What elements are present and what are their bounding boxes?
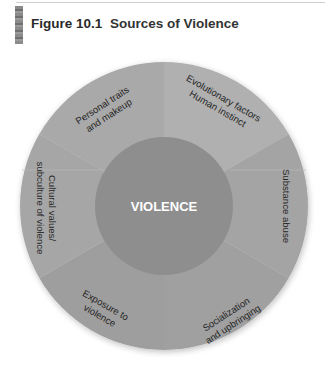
label-substance-abuse: Substance abuse: [281, 169, 292, 243]
svg-text:Substance abuse: Substance abuse: [281, 169, 292, 243]
violence-wheel-diagram: VIOLENCE Personal traits and makeup Evol…: [0, 0, 325, 383]
svg-text:subculture of violence: subculture of violence: [35, 162, 46, 255]
center-label: VIOLENCE: [131, 199, 198, 214]
label-cultural-values: Cultural values/ subculture of violence: [35, 162, 58, 255]
svg-text:Cultural values/: Cultural values/: [47, 175, 58, 241]
